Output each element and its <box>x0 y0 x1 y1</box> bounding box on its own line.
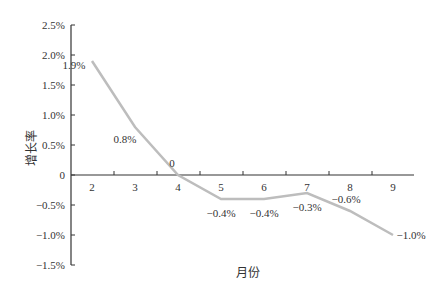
data-label: −0.3% <box>292 201 321 213</box>
y-tick-label: −1.5% <box>36 259 65 271</box>
data-label: 0.8% <box>114 133 137 145</box>
line-chart: 2.5%2.0%1.5%1.0%0.5%0−0.5%−1.0%−1.5% 234… <box>0 0 442 293</box>
data-label: −0.4% <box>249 207 278 219</box>
x-tick-label: 8 <box>347 181 353 193</box>
data-labels: 1.9%0.8%0−0.4%−0.4%−0.3%−0.6%−1.0% <box>63 59 426 241</box>
y-tick-label: 0.5% <box>42 139 65 151</box>
y-axis: 2.5%2.0%1.5%1.0%0.5%0−0.5%−1.0%−1.5% <box>36 19 75 271</box>
x-tick-label: 7 <box>304 181 310 193</box>
x-tick-label: 6 <box>261 181 267 193</box>
y-tick-label: −0.5% <box>36 199 65 211</box>
data-label: 0 <box>169 157 175 169</box>
y-tick-label: 2.5% <box>42 19 65 31</box>
x-tick-label: 5 <box>218 181 224 193</box>
x-tick-label: 2 <box>89 181 95 193</box>
y-tick-label: 1.0% <box>42 109 65 121</box>
growth-rate-line <box>92 61 393 235</box>
data-label: 1.9% <box>63 59 86 71</box>
y-axis-label: 增长率 <box>24 130 39 166</box>
x-tick-label: 3 <box>132 181 138 193</box>
x-axis-label: 月份 <box>236 266 260 280</box>
y-tick-label: 0 <box>60 169 66 181</box>
x-tick-label: 4 <box>175 181 181 193</box>
data-label: −1.0% <box>396 229 425 241</box>
x-tick-label: 9 <box>390 181 396 193</box>
y-tick-label: 1.5% <box>42 79 65 91</box>
data-label: −0.4% <box>206 207 235 219</box>
x-axis: 23456789 <box>71 171 414 193</box>
data-label: −0.6% <box>331 193 360 205</box>
y-tick-label: −1.0% <box>36 229 65 241</box>
